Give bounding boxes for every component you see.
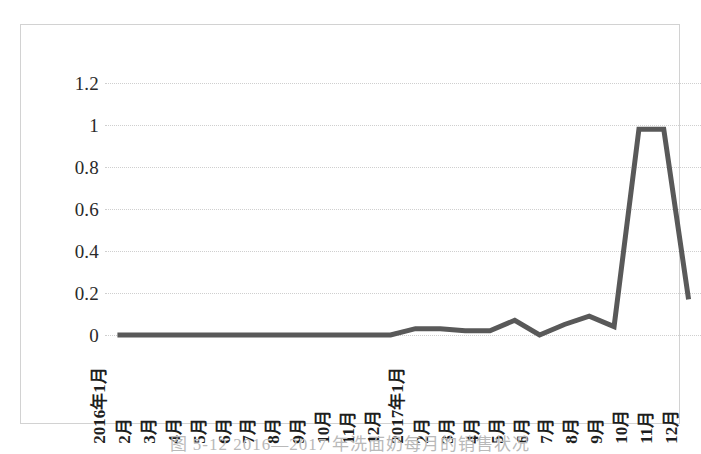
y-axis: 00.20.40.60.811.2 bbox=[47, 83, 99, 335]
figure-caption: 图 5-12 2016—2017 年洗面奶每月的销售状况 bbox=[20, 430, 680, 452]
y-tick-label: 0 bbox=[89, 326, 99, 345]
y-tick-label: 0.8 bbox=[75, 158, 99, 177]
series-line bbox=[117, 129, 688, 335]
chart-frame: 00.20.40.60.811.2 2016年1月2月3月4月5月6月7月8月9… bbox=[20, 24, 680, 424]
plot-area bbox=[105, 83, 701, 335]
y-tick-label: 0.2 bbox=[75, 284, 99, 303]
x-axis: 2016年1月2月3月4月5月6月7月8月9月10月11月12月2017年1月2… bbox=[105, 339, 701, 444]
y-tick-label: 1.2 bbox=[75, 74, 99, 93]
line-series bbox=[105, 83, 701, 335]
y-tick-label: 0.6 bbox=[75, 200, 99, 219]
y-tick-label: 1 bbox=[89, 116, 99, 135]
y-tick-label: 0.4 bbox=[75, 242, 99, 261]
